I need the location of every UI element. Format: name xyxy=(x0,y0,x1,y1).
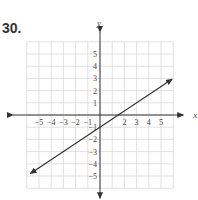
x-tick-label: 4 xyxy=(147,118,151,127)
x-tick-label: −4 xyxy=(47,118,56,127)
coordinate-graph: xy−5−4−3−2−1234554321−1−2−3−4−5 xyxy=(0,0,198,200)
axes xyxy=(13,32,183,198)
y-tick-label: −1 xyxy=(88,123,97,132)
y-axis-label: y xyxy=(96,18,101,28)
y-tick-label: 5 xyxy=(93,50,97,59)
x-tick-label: −5 xyxy=(35,118,44,127)
y-tick-label: −5 xyxy=(88,172,97,181)
y-tick-label: 4 xyxy=(93,62,97,71)
x-tick-label: −2 xyxy=(71,118,80,127)
x-tick-label: 2 xyxy=(122,118,126,127)
y-tick-label: 1 xyxy=(93,99,97,108)
y-tick-label: −2 xyxy=(88,135,97,144)
x-tick-label: 5 xyxy=(159,118,163,127)
x-axis-label: x xyxy=(192,110,197,120)
y-tick-label: 3 xyxy=(93,74,97,83)
x-tick-label: −3 xyxy=(59,118,68,127)
x-tick-label: 3 xyxy=(135,118,139,127)
y-tick-label: 2 xyxy=(93,87,97,96)
y-tick-label: −4 xyxy=(88,160,97,169)
y-tick-label: −3 xyxy=(88,148,97,157)
